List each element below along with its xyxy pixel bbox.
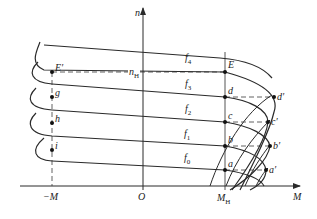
f2-sub: 2 (188, 109, 192, 117)
diagram-canvas: n M O −M MH nH f4 f3 f2 f1 f0 E d c b a … (0, 0, 317, 219)
point-h (50, 121, 54, 125)
point-b (223, 144, 227, 148)
label-c: c (228, 111, 232, 121)
f4-sub: 4 (188, 58, 192, 66)
curve-label-f1: f1 (184, 129, 190, 142)
neg-m-label: −M (43, 192, 58, 202)
point-c (223, 120, 227, 124)
curve-label-f2: f2 (185, 104, 191, 117)
label-cprime: c′ (271, 117, 278, 127)
point-E (223, 70, 227, 74)
curve-label-f3: f3 (185, 79, 191, 92)
label-dprime: d′ (277, 92, 284, 102)
label-b: b (228, 135, 233, 145)
points-far-right (264, 95, 276, 172)
m-axis-label: M (293, 192, 301, 202)
f3-sub: 3 (188, 84, 192, 92)
point-dprime (272, 95, 276, 99)
label-Eprime: E′ (55, 63, 63, 73)
origin-label: O (138, 192, 145, 202)
rated-torque-sub: H (225, 198, 230, 206)
label-h: h (55, 114, 60, 124)
point-Eprime (50, 70, 54, 74)
f1-sub: 1 (187, 134, 191, 142)
rated-speed-sub: H (134, 72, 139, 80)
diagram-svg (0, 0, 317, 219)
curve-f1 (30, 113, 266, 190)
point-aprime (264, 168, 268, 172)
n-axis-label: n (135, 8, 140, 18)
point-bprime (268, 144, 272, 148)
curve-label-f4: f4 (185, 53, 191, 66)
point-i (50, 148, 54, 152)
label-E: E (228, 60, 234, 70)
point-g (50, 95, 54, 99)
curve-f4-top (44, 45, 272, 78)
curve-f4 (35, 42, 275, 190)
curve-label-f0: f0 (184, 153, 190, 166)
f0-sub: 0 (187, 158, 191, 166)
point-d (223, 95, 227, 99)
rated-speed-label: nH (128, 67, 140, 80)
curve-f2 (30, 88, 270, 190)
label-aprime: a′ (269, 165, 276, 175)
label-i: i (55, 141, 58, 151)
label-a: a (228, 159, 233, 169)
label-bprime: b′ (273, 141, 280, 151)
rated-torque-label: MH (217, 193, 230, 206)
label-g: g (55, 88, 60, 98)
point-cprime (266, 120, 270, 124)
point-a (223, 168, 227, 172)
label-d: d (228, 86, 233, 96)
